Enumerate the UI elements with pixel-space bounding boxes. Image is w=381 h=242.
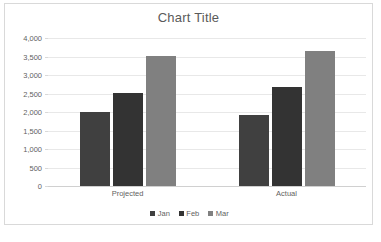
y-axis-tick-label: 2,500	[5, 89, 45, 98]
caption-strip	[0, 234, 381, 242]
y-axis-labels: 4,0003,5003,0002,5002,0001,5001,0005000	[5, 38, 45, 186]
legend-item-feb[interactable]: Feb	[179, 209, 199, 218]
x-axis-labels: ProjectedActual	[48, 189, 366, 198]
y-axis-tick-label: 0	[5, 182, 45, 191]
bar-mar-actual[interactable]	[305, 51, 335, 186]
plot-area[interactable]	[48, 38, 366, 186]
bar-mar-projected[interactable]	[146, 56, 176, 186]
axis-line	[48, 186, 366, 187]
bar-group	[48, 38, 207, 186]
legend-label: Mar	[216, 209, 229, 218]
bar-jan-projected[interactable]	[80, 112, 110, 186]
bar-group-bars	[207, 38, 366, 186]
legend-item-jan[interactable]: Jan	[150, 209, 170, 218]
legend-item-mar[interactable]: Mar	[208, 209, 228, 218]
bar-group	[207, 38, 366, 186]
y-axis-tick-label: 1,500	[5, 126, 45, 135]
chart-legend[interactable]: JanFebMar	[5, 209, 374, 218]
bar-feb-actual[interactable]	[272, 87, 302, 186]
legend-label: Feb	[186, 209, 199, 218]
x-axis-category-label: Projected	[48, 189, 207, 198]
bar-groups	[48, 38, 366, 186]
chart-frame[interactable]: Chart Title 4,0003,5003,0002,5002,0001,5…	[4, 3, 373, 225]
y-axis-tick-label: 4,000	[5, 34, 45, 43]
legend-label: Jan	[158, 209, 170, 218]
legend-swatch-icon	[150, 211, 155, 216]
bar-feb-projected[interactable]	[113, 93, 143, 186]
x-axis-category-label: Actual	[207, 189, 366, 198]
legend-swatch-icon	[208, 211, 213, 216]
bar-group-bars	[48, 38, 207, 186]
y-axis-tick-label: 500	[5, 163, 45, 172]
bar-jan-actual[interactable]	[239, 115, 269, 186]
legend-swatch-icon	[179, 211, 184, 216]
y-axis-tick-label: 3,500	[5, 52, 45, 61]
y-axis-tick-label: 3,000	[5, 71, 45, 80]
y-axis-tick-mark	[45, 186, 49, 187]
y-axis-tick-label: 1,000	[5, 145, 45, 154]
plot-wrapper: 4,0003,5003,0002,5002,0001,5001,0005000 …	[5, 4, 374, 226]
y-axis-tick-label: 2,000	[5, 108, 45, 117]
